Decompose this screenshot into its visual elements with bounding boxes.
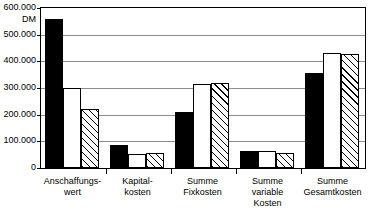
x-axis-tick-mark: [301, 169, 302, 174]
bar-group: [171, 8, 236, 168]
y-axis-tick-mark: [37, 61, 41, 62]
bar: [341, 54, 359, 168]
bar-group: [106, 8, 171, 168]
y-axis-tick-label: 400.000: [0, 56, 36, 65]
y-axis-unit-label: DM: [0, 14, 36, 24]
y-axis-tick-mark: [37, 141, 41, 142]
x-axis-baseline: [41, 168, 366, 169]
x-axis-category-label-line: Gesamtkosten: [294, 187, 371, 198]
bar: [128, 154, 146, 168]
y-axis-tick-mark: [37, 168, 41, 169]
bar-chart: DM 600.000500.000400.000300.000200.00010…: [0, 0, 379, 213]
x-axis-category-label-line: Summe: [294, 176, 371, 187]
x-axis-tick-mark: [171, 169, 172, 174]
bar: [193, 84, 211, 168]
bar-group: [41, 8, 106, 168]
y-axis-tick-mark: [37, 115, 41, 116]
bar: [45, 19, 63, 168]
x-axis-category-label: SummeGesamtkosten: [294, 176, 371, 198]
bar-group: [236, 8, 301, 168]
plot-area: [40, 7, 366, 169]
bar: [258, 151, 276, 168]
bar: [323, 53, 341, 168]
bar: [276, 153, 294, 168]
x-axis-category-label-line: Kosten: [229, 198, 306, 209]
y-axis-tick-label: 300.000: [0, 83, 36, 92]
x-axis-tick-mark: [106, 169, 107, 174]
y-axis-tick-label: 200.000: [0, 110, 36, 119]
bar: [211, 83, 229, 168]
bar: [146, 153, 164, 168]
bar: [305, 73, 323, 168]
bar: [81, 109, 99, 168]
y-axis-tick-mark: [37, 35, 41, 36]
y-axis-tick-mark: [37, 8, 41, 9]
bar: [175, 112, 193, 168]
y-axis-tick-label: 100.000: [0, 136, 36, 145]
x-axis-tick-mark: [236, 169, 237, 174]
y-axis-tick-label: 600.000: [0, 3, 36, 12]
bar-group: [301, 8, 366, 168]
y-axis-tick-mark: [37, 88, 41, 89]
bar: [110, 145, 128, 168]
bar: [63, 88, 81, 168]
bar: [240, 151, 258, 168]
y-axis-tick-label: 0: [0, 163, 36, 172]
y-axis-tick-label: 500.000: [0, 30, 36, 39]
